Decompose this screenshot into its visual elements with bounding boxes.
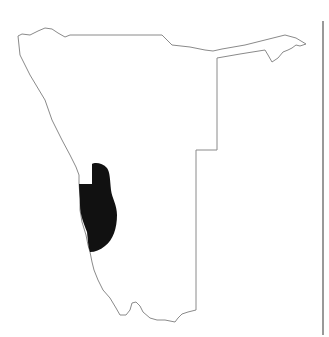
namibia-map bbox=[0, 0, 329, 337]
country-outline bbox=[18, 28, 306, 322]
